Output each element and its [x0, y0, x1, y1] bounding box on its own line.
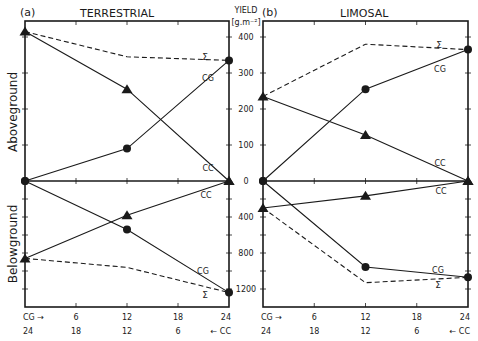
x-label-cc: 24: [23, 327, 33, 336]
y-tick-label: 1200: [236, 285, 256, 294]
x-label-cc: 12: [122, 327, 132, 336]
panels: CG →24618121218624← CCCGCCΣCCCGΣCG →2461…: [20, 21, 474, 336]
aboveground-label: Aboveground: [6, 72, 20, 152]
aboveground-series-cg: [25, 60, 229, 181]
x-label-cg: 24: [221, 313, 231, 322]
x-label-cg: 18: [173, 313, 183, 322]
x-label-cg: 12: [360, 313, 370, 322]
circle-marker-icon: [259, 177, 267, 185]
label-sigma: Σ: [202, 290, 208, 300]
circle-marker-icon: [123, 226, 131, 234]
label-cc: CC: [202, 164, 214, 173]
x-label-cg: CG →: [261, 313, 282, 322]
label-cg: CG: [202, 74, 214, 83]
x-label-cc: ← CC: [211, 327, 232, 336]
panel-a-title: TERRESTRIAL: [79, 7, 155, 20]
y-tick-label: 400: [238, 33, 253, 42]
x-label-cg: 18: [412, 313, 422, 322]
y-tick-label: 400: [238, 213, 253, 222]
x-label-cc: 18: [309, 327, 319, 336]
circle-marker-icon: [362, 263, 370, 271]
y-tick-label: 300: [238, 69, 253, 78]
x-label-cg: 6: [312, 313, 317, 322]
panel-b-title: LIMOSAL: [340, 7, 389, 20]
circle-marker-icon: [362, 85, 370, 93]
circle-marker-icon: [21, 177, 29, 185]
label-sigma: Σ: [436, 40, 442, 50]
triangle-marker-icon: [20, 27, 31, 36]
y-tick-label: 200: [238, 105, 253, 114]
yaxis-title: YIELD: [234, 6, 258, 15]
circle-marker-icon: [123, 145, 131, 153]
y-tick-label: 0: [243, 177, 248, 186]
triangle-marker-icon: [122, 84, 133, 93]
x-label-cc: 6: [414, 327, 419, 336]
label-sigma: Σ: [202, 52, 208, 62]
x-label-cg: 12: [122, 313, 132, 322]
belowground-series-cc: [25, 181, 229, 258]
x-label-cc: 24: [261, 327, 271, 336]
x-label-cc: ← CC: [450, 327, 471, 336]
y-tick-label: 100: [238, 141, 253, 150]
label-cg: CG: [432, 266, 444, 275]
triangle-marker-icon: [20, 253, 31, 262]
circle-marker-icon: [225, 289, 233, 297]
panel-frame: [25, 21, 229, 307]
panel-b-tag: (b): [262, 6, 278, 19]
x-label-cg: 24: [460, 313, 470, 322]
x-label-cc: 18: [71, 327, 81, 336]
aboveground-series-sigma: [25, 32, 229, 61]
triangle-marker-icon: [360, 130, 371, 139]
x-label-cc: 6: [175, 327, 180, 336]
panel-terrestrial: CG →24618121218624← CCCGCCΣCCCGΣ: [20, 21, 235, 336]
label-cc: CC: [435, 187, 447, 196]
panel-a-tag: (a): [20, 6, 35, 19]
aboveground-series-cc: [25, 32, 229, 181]
label-sigma: Σ: [435, 280, 441, 290]
x-label-cc: 12: [360, 327, 370, 336]
yield-chart: CG →24618121218624← CCCGCCΣCCCGΣCG →2461…: [0, 0, 478, 341]
x-label-cg: 6: [73, 313, 78, 322]
label-cc: CC: [434, 159, 446, 168]
label-cc: CC: [200, 191, 212, 200]
belowground-label: Belowground: [6, 205, 20, 284]
label-cg: CG: [434, 65, 446, 74]
panel-limosal: CG →24618121218624← CCCGCCΣCCCGΣ: [258, 21, 474, 336]
yaxis-unit: [g.m⁻²]: [231, 18, 260, 27]
x-label-cg: CG →: [23, 313, 44, 322]
triangle-marker-icon: [122, 210, 133, 219]
label-cg: CG: [197, 267, 209, 276]
y-tick-label: 800: [238, 249, 253, 258]
